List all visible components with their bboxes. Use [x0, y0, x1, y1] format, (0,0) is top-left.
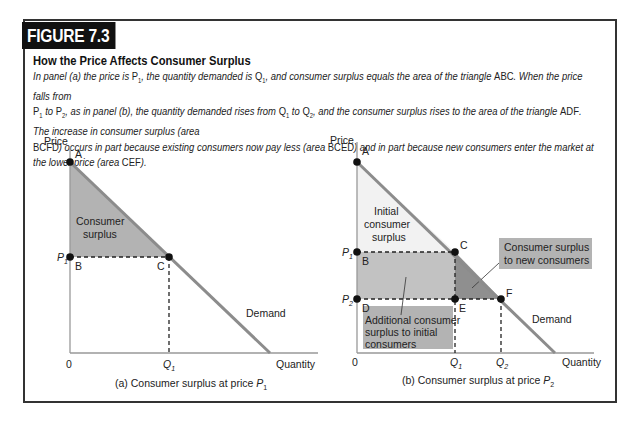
point-f: [497, 295, 505, 303]
initial-surplus-line1: Initial: [374, 205, 399, 217]
label-f: F: [506, 287, 512, 299]
origin-label: 0: [66, 358, 72, 370]
initial-surplus-line3: surplus: [372, 231, 406, 243]
new-consumer-surplus-region: [455, 252, 501, 299]
label-b: B: [75, 260, 82, 272]
point-c: [165, 253, 173, 261]
q1-label: Q1: [163, 358, 175, 372]
point-a: [66, 158, 74, 166]
panel-b: Price A B C D E F P1 P2 Initial consumer…: [330, 134, 602, 388]
new-consumer-line2: to new consumers: [504, 254, 589, 266]
point-e: [451, 295, 459, 303]
initial-surplus-line2: consumer: [364, 218, 411, 230]
p1-label: P1: [342, 246, 353, 260]
panel-a: Price A B C P1 Consumer surplus Demand 0…: [44, 135, 318, 391]
label-e: E: [459, 302, 466, 314]
additional-surplus-region: [357, 252, 455, 299]
label-d: D: [362, 302, 370, 314]
x-axis-label: Quantity: [276, 358, 316, 370]
label-c: C: [460, 239, 468, 251]
p2-label: P2: [342, 293, 353, 307]
demand-label: Demand: [532, 313, 572, 325]
panel-a-caption: (a) Consumer surplus at price P1: [115, 377, 267, 391]
additional-surplus-line1: Additional consumer: [365, 314, 461, 326]
surplus-label-line1: Consumer: [76, 215, 125, 227]
label-a: A: [362, 145, 369, 157]
y-axis-label: Price: [44, 135, 68, 147]
panel-b-caption: (b) Consumer surplus at price P2: [402, 374, 554, 388]
q1-label: Q1: [450, 356, 462, 370]
new-consumer-line1: Consumer surplus: [504, 241, 589, 253]
point-a: [353, 158, 361, 166]
q2-label: Q2: [496, 356, 508, 370]
point-b: [353, 248, 361, 256]
label-b: B: [362, 255, 369, 267]
point-c: [451, 248, 459, 256]
surplus-label-line2: surplus: [83, 228, 117, 240]
y-axis-label: Price: [330, 134, 354, 146]
point-d: [353, 295, 361, 303]
origin-label: 0: [352, 356, 358, 368]
demand-label: Demand: [246, 307, 286, 319]
label-a: A: [75, 148, 82, 160]
charts-canvas: Price A B C P1 Consumer surplus Demand 0…: [0, 0, 635, 425]
additional-surplus-line2: surplus to initial: [365, 326, 437, 338]
x-axis-label: Quantity: [562, 356, 602, 368]
additional-surplus-line3: consumers: [365, 338, 416, 350]
label-c: C: [157, 260, 165, 272]
p1-label: P1: [57, 251, 68, 265]
